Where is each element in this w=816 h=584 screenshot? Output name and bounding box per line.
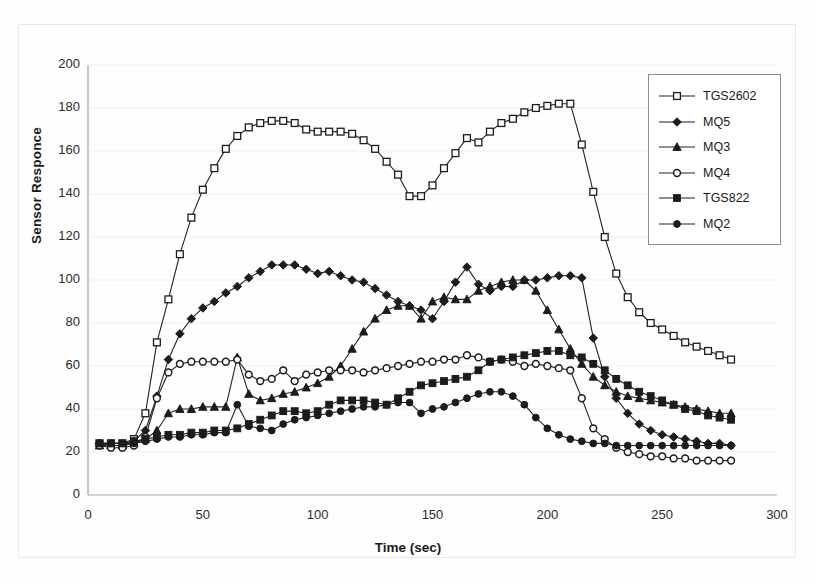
filled-circle-icon	[657, 217, 697, 231]
legend-label: MQ4	[703, 166, 730, 180]
y-axis-title: Sensor Responce	[29, 106, 44, 266]
legend-label: MQ2	[703, 217, 730, 231]
sensor-response-chart: 020406080100120140160180200 050100150200…	[0, 0, 816, 584]
y-tick-label: 20	[34, 443, 80, 458]
filled-square-icon	[657, 191, 697, 205]
y-tick-label: 0	[34, 486, 80, 501]
x-axis-title: Time (sec)	[0, 540, 816, 555]
y-tick-label: 100	[34, 271, 80, 286]
x-tick-label: 200	[524, 507, 570, 522]
open-circle-icon	[657, 166, 697, 180]
legend-label: MQ3	[703, 140, 730, 154]
series-mq5	[95, 261, 735, 450]
x-tick-label: 50	[180, 507, 226, 522]
x-tick-label: 300	[754, 507, 800, 522]
legend-label: TGS2602	[703, 89, 757, 103]
legend: TGS2602MQ5MQ3MQ4TGS822MQ2	[648, 74, 781, 245]
open-square-icon	[657, 89, 697, 103]
x-tick-label: 0	[65, 507, 111, 522]
legend-item-tgs822[interactable]: TGS822	[657, 187, 750, 209]
legend-label: TGS822	[703, 191, 750, 205]
legend-item-tgs2602[interactable]: TGS2602	[657, 85, 757, 107]
x-tick-label: 150	[410, 507, 456, 522]
legend-item-mq2[interactable]: MQ2	[657, 213, 730, 235]
legend-label: MQ5	[703, 115, 730, 129]
y-tick-label: 40	[34, 400, 80, 415]
y-tick-label: 80	[34, 314, 80, 329]
x-tick-label: 250	[639, 507, 685, 522]
filled-diamond-icon	[657, 115, 697, 129]
x-tick-label: 100	[295, 507, 341, 522]
y-tick-label: 200	[34, 56, 80, 71]
y-tick-label: 60	[34, 357, 80, 372]
legend-item-mq3[interactable]: MQ3	[657, 136, 730, 158]
legend-item-mq5[interactable]: MQ5	[657, 111, 730, 133]
legend-item-mq4[interactable]: MQ4	[657, 162, 730, 184]
filled-triangle-icon	[657, 140, 697, 154]
